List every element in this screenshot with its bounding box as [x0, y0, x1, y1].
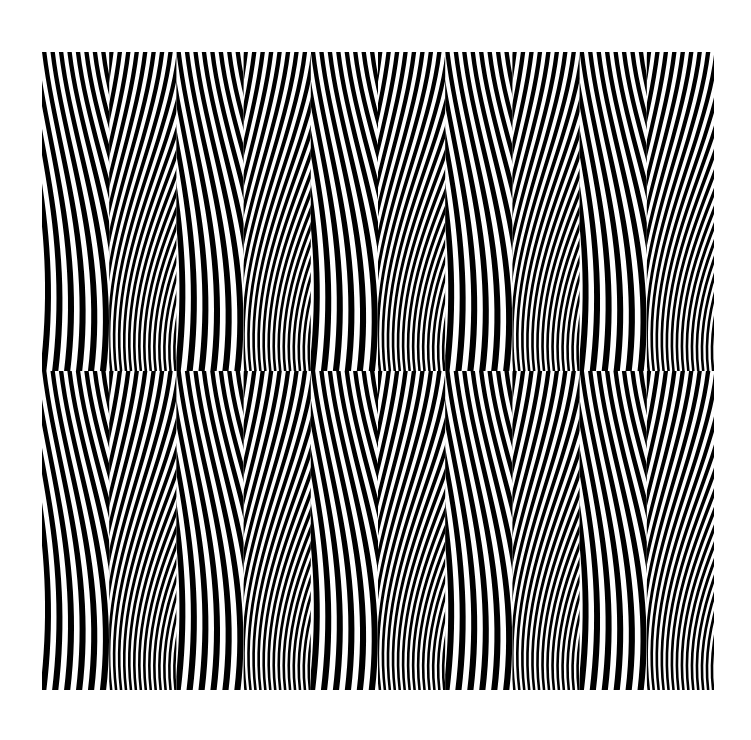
- striped-wave-pattern: [42, 52, 714, 690]
- artwork-canvas: [42, 52, 714, 690]
